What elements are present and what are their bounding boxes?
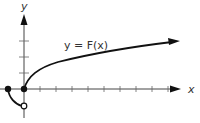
- x-axis-label: x: [187, 83, 195, 96]
- y-axis: [19, 14, 29, 118]
- closed-point-left: [5, 86, 11, 92]
- closed-point-origin: [21, 86, 27, 92]
- y-axis-label: y: [20, 0, 28, 13]
- function-label: y = F(x): [64, 39, 108, 52]
- left-piece-curve: [8, 89, 22, 106]
- y-axis-arrow-icon: [21, 14, 28, 25]
- x-axis-arrow-icon: [170, 86, 181, 93]
- curve-arrow-icon: [168, 38, 180, 45]
- open-point: [21, 103, 27, 109]
- graph-figure: y x y = F(x): [0, 0, 200, 123]
